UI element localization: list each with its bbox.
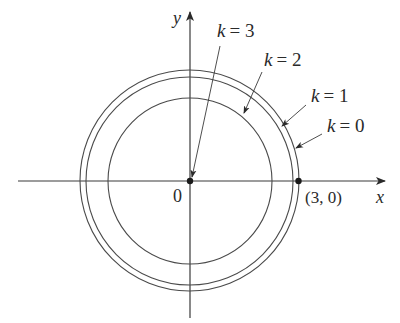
arrow-k1 bbox=[282, 105, 306, 126]
label-k0: k= 0 bbox=[327, 115, 364, 136]
y-axis-label: y bbox=[171, 8, 181, 28]
origin-label: 0 bbox=[173, 186, 182, 206]
arrow-k3 bbox=[192, 46, 220, 177]
label-k3: k= 3 bbox=[217, 20, 254, 41]
x-axis-label: x bbox=[375, 187, 384, 207]
label-k1: k= 1 bbox=[311, 85, 348, 106]
label-k2: k= 2 bbox=[264, 49, 301, 70]
arrow-k2 bbox=[244, 72, 262, 113]
point-label: (3, 0) bbox=[305, 188, 342, 207]
arrow-k0 bbox=[296, 134, 322, 148]
origin-point bbox=[187, 178, 193, 184]
point-3-0 bbox=[295, 178, 301, 184]
level-curves-diagram: y x 0 (3, 0) k= 3 k= 2 k= 1 k= 0 bbox=[0, 0, 400, 323]
